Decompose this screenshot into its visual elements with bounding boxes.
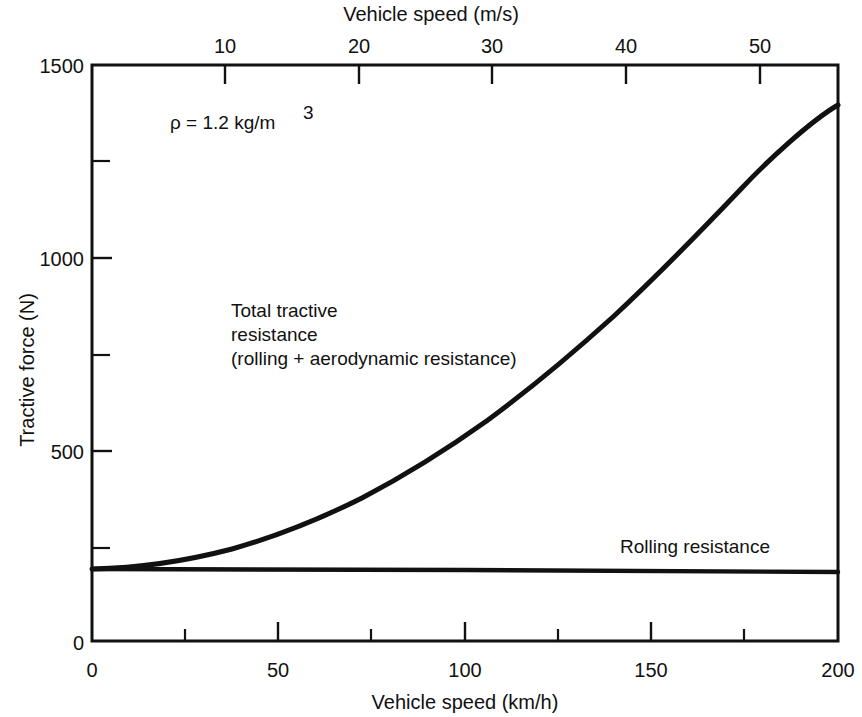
series-total-tractive-resistance [92,105,838,569]
top-axis-title: Vehicle speed (m/s) [343,3,519,25]
bottom-tick-label-100: 100 [448,659,481,681]
y-tick-label-0: 0 [73,632,84,654]
total-label-line-1: Total tractive [231,300,338,321]
y-tick-label-1500: 1500 [40,55,85,77]
density-annotation-text: ρ = 1.2 kg/m [170,112,275,133]
bottom-axis-ticks: 0 50 100 150 200 [86,622,854,681]
total-tractive-resistance-label: Total tractive resistance (rolling + aer… [231,300,517,369]
bottom-tick-label-50: 50 [267,659,289,681]
total-label-line-2: resistance [231,324,318,345]
bottom-tick-label-200: 200 [821,659,854,681]
bottom-tick-label-0: 0 [86,659,97,681]
total-label-line-3: (rolling + aerodynamic resistance) [231,348,517,369]
bottom-axis-title: Vehicle speed (km/h) [372,691,559,713]
density-annotation-superscript: 3 [303,102,314,123]
top-tick-label-20: 20 [348,35,370,57]
top-tick-label-30: 30 [481,35,503,57]
series-rolling-resistance [92,569,838,572]
density-annotation: ρ = 1.2 kg/m 3 [170,102,314,133]
tractive-resistance-chart: Vehicle speed (m/s) 10 20 30 40 50 0 50 … [0,0,862,717]
y-tick-label-500: 500 [51,441,84,463]
rolling-resistance-label: Rolling resistance [620,536,770,557]
top-tick-label-50: 50 [749,35,771,57]
top-tick-label-10: 10 [214,35,236,57]
y-axis-ticks: 1500 1000 500 0 [40,55,113,654]
top-tick-label-40: 40 [615,35,637,57]
top-axis-ticks: 10 20 30 40 50 [214,35,771,84]
bottom-tick-label-150: 150 [634,659,667,681]
y-tick-label-1000: 1000 [40,248,85,270]
y-axis-title: Tractive force (N) [16,293,38,447]
